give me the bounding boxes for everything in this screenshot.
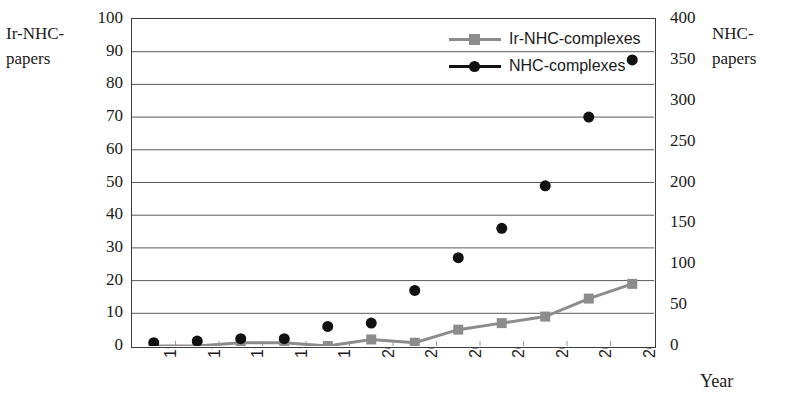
chart-figure: Ir-NHC-papers NHC-papers Year 0102030405… (0, 0, 785, 416)
right-tick-300: 300 (670, 90, 716, 110)
marker-2000 (366, 318, 377, 329)
legend-swatch-circle-icon (449, 60, 501, 72)
series-line (154, 284, 633, 346)
marker-2002 (453, 325, 463, 335)
marker-1997 (235, 333, 246, 344)
marker-2004 (540, 180, 551, 191)
series-nhc-complexes (148, 54, 638, 346)
left-tick-30: 30 (77, 237, 123, 257)
legend-marker-circle-icon (469, 61, 480, 72)
marker-2003 (497, 318, 507, 328)
legend-swatch-square-icon (449, 33, 501, 45)
right-tick-50: 50 (670, 294, 716, 314)
left-tick-40: 40 (77, 204, 123, 224)
left-tick-100: 100 (77, 8, 123, 28)
marker-2003 (496, 223, 507, 234)
marker-2001 (410, 338, 420, 346)
legend-marker-square-icon (469, 34, 480, 45)
marker-2006 (627, 54, 638, 65)
legend-label: Ir-NHC-complexes (509, 30, 641, 48)
series-ir-nhc-complexes (149, 279, 638, 346)
marker-2006 (627, 279, 637, 289)
right-tick-0: 0 (670, 335, 716, 355)
marker-1996 (192, 336, 203, 346)
marker-2000 (366, 334, 376, 344)
left-tick-60: 60 (77, 139, 123, 159)
legend-item-ir-nhc-complexes[interactable]: Ir-NHC-complexes (449, 30, 641, 48)
right-axis-title: NHC-papers (712, 22, 784, 71)
left-tick-80: 80 (77, 73, 123, 93)
left-tick-0: 0 (77, 335, 123, 355)
legend-label: NHC-complexes (509, 57, 625, 75)
left-tick-10: 10 (77, 302, 123, 322)
marker-2002 (453, 252, 464, 263)
right-tick-100: 100 (670, 253, 716, 273)
marker-1999 (323, 341, 333, 346)
left-axis-title: Ir-NHC-papers (6, 22, 84, 71)
right-tick-200: 200 (670, 172, 716, 192)
x-axis-title: Year (700, 368, 733, 394)
left-tick-70: 70 (77, 106, 123, 126)
marker-2004 (540, 312, 550, 322)
marker-2001 (409, 285, 420, 296)
left-tick-20: 20 (77, 270, 123, 290)
marker-1995 (148, 337, 159, 346)
left-tick-50: 50 (77, 172, 123, 192)
marker-2005 (583, 112, 594, 123)
marker-1998 (279, 333, 290, 344)
legend-item-nhc-complexes[interactable]: NHC-complexes (449, 57, 625, 75)
left-tick-90: 90 (77, 41, 123, 61)
right-tick-250: 250 (670, 131, 716, 151)
marker-2005 (584, 294, 594, 304)
right-tick-350: 350 (670, 49, 716, 69)
marker-1999 (322, 321, 333, 332)
right-tick-150: 150 (670, 212, 716, 232)
right-tick-400: 400 (670, 8, 716, 28)
